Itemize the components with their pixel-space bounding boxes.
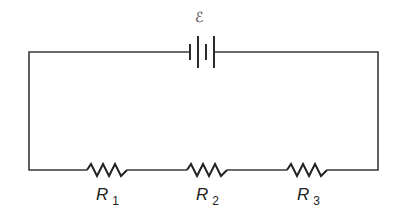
r2-name: R xyxy=(196,185,208,204)
r3-subscript: 3 xyxy=(313,194,320,208)
wire-top-left xyxy=(29,52,190,170)
circuit-diagram xyxy=(0,0,402,215)
battery-icon xyxy=(190,36,214,68)
r2-subscript: 2 xyxy=(212,194,219,208)
resistor-r2-icon xyxy=(187,164,227,176)
resistor-r3-label: R3 xyxy=(297,186,320,207)
resistor-r2-label: R2 xyxy=(196,186,219,207)
resistor-r1-icon xyxy=(87,164,127,176)
r1-name: R xyxy=(96,185,108,204)
resistor-r3-icon xyxy=(287,164,327,176)
resistor-r1-label: R1 xyxy=(96,186,119,207)
emf-label: ℰ xyxy=(195,10,203,24)
r3-name: R xyxy=(297,185,309,204)
wire-top-right xyxy=(214,52,378,170)
r1-subscript: 1 xyxy=(112,194,119,208)
